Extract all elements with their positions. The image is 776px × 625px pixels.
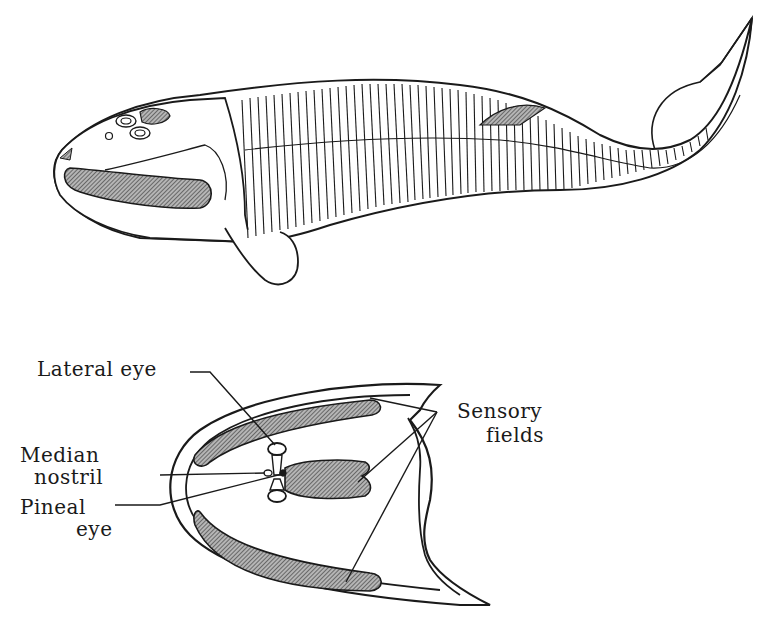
label-median-nostril-line2: nostril [34, 466, 103, 488]
label-sensory-fields-line2: fields [486, 424, 544, 446]
label-pineal-eye-line2: eye [76, 518, 112, 540]
fish-side-view [54, 18, 752, 284]
label-sensory-fields-line1: Sensory [457, 400, 542, 422]
diagram-canvas: Lateral eye Median nostril Pineal eye Se… [0, 0, 776, 625]
label-median-nostril-line1: Median [20, 444, 99, 466]
label-lateral-eye: Lateral eye [37, 358, 157, 380]
fish-illustration [0, 0, 776, 625]
head-shield-dorsal-view [115, 372, 490, 605]
label-pineal-eye-line1: Pineal [20, 496, 86, 518]
